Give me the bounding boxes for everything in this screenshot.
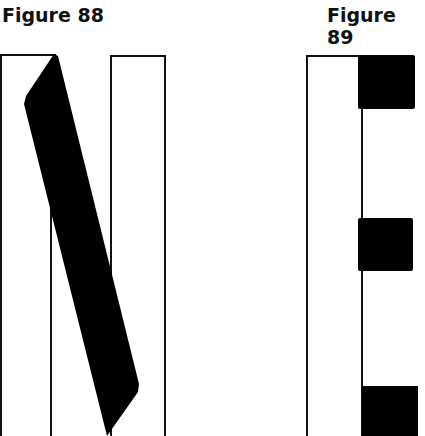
e-middle-arm [358, 218, 413, 271]
n-diagonal-stroke [24, 54, 139, 436]
e-top-arm [358, 55, 415, 109]
figure-89-letter-e [307, 55, 418, 436]
e-bottom-arm [362, 386, 418, 436]
e-spine-outline [307, 56, 360, 436]
figures-canvas [0, 0, 425, 436]
figure-88-letter-n [1, 54, 165, 436]
